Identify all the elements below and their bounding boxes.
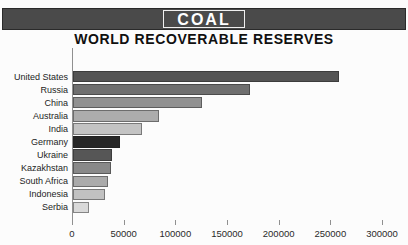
bar-row: South Africa <box>0 175 408 188</box>
category-label: India <box>0 124 68 134</box>
bar <box>73 202 89 214</box>
bar-rows: United StatesRussiaChinaAustraliaIndiaGe… <box>0 70 408 214</box>
x-tick-label: 50000 <box>110 228 136 239</box>
category-label: Russia <box>0 85 68 95</box>
bar <box>73 149 112 161</box>
category-label: Ukraine <box>0 150 68 160</box>
bar <box>73 110 159 122</box>
category-label: Kazakhstan <box>0 163 68 173</box>
bar-row: China <box>0 96 408 109</box>
bar <box>73 162 111 174</box>
x-tick <box>382 220 383 225</box>
category-label: Serbia <box>0 202 68 212</box>
bar-row: India <box>0 122 408 135</box>
coal-reserves-chart: COAL WORLD RECOVERABLE RESERVES United S… <box>0 0 408 245</box>
header-bar: COAL <box>2 8 406 30</box>
bar <box>73 189 105 201</box>
x-tick <box>330 220 331 225</box>
category-label: Australia <box>0 111 68 121</box>
bar <box>73 123 142 135</box>
bar-row: Australia <box>0 109 408 122</box>
bar <box>73 84 250 96</box>
bar-row: Russia <box>0 83 408 96</box>
x-tick <box>124 220 125 225</box>
category-label: United States <box>0 72 68 82</box>
bar <box>73 71 339 83</box>
category-label: China <box>0 98 68 108</box>
x-tick-label: 100000 <box>159 228 191 239</box>
bar-row: Kazakhstan <box>0 162 408 175</box>
chart-subtitle: WORLD RECOVERABLE RESERVES <box>0 31 408 47</box>
title-box: COAL <box>163 10 244 28</box>
bar-row: Serbia <box>0 201 408 214</box>
bar-row: Indonesia <box>0 188 408 201</box>
x-tick-label: 0 <box>69 228 74 239</box>
chart-title: COAL <box>177 11 230 28</box>
category-label: South Africa <box>0 176 68 186</box>
x-tick <box>279 220 280 225</box>
bar <box>73 176 108 188</box>
x-tick <box>175 220 176 225</box>
bar-row: United States <box>0 70 408 83</box>
category-label: Germany <box>0 137 68 147</box>
x-tick-label: 150000 <box>211 228 243 239</box>
bar-row: Ukraine <box>0 149 408 162</box>
bar <box>73 136 120 148</box>
x-tick <box>227 220 228 225</box>
bar <box>73 97 202 109</box>
x-tick-label: 200000 <box>263 228 295 239</box>
category-label: Indonesia <box>0 189 68 199</box>
x-tick-label: 300000 <box>366 228 398 239</box>
bar-row: Germany <box>0 135 408 148</box>
x-tick-label: 250000 <box>314 228 346 239</box>
